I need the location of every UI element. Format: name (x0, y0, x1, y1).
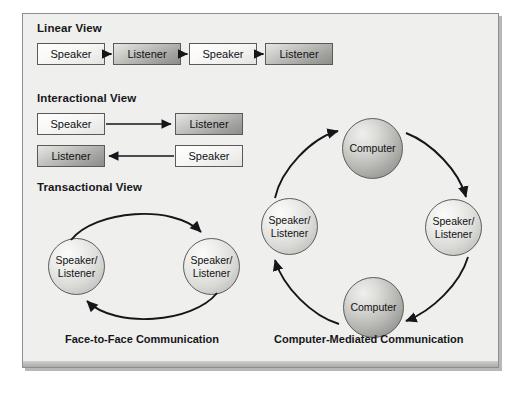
interactional-node-listener-top-label: Listener (189, 118, 228, 130)
interactional-view-arrows (106, 124, 174, 156)
cmc-node-speaker-listener-left-label-line2: Listener (271, 227, 308, 239)
cmc-node-speaker-listener-left-label-line1: Speaker/ (268, 214, 310, 226)
interactional-node-speaker-top: Speaker (37, 113, 105, 135)
linear-node-speaker-2-label: Speaker (203, 48, 244, 60)
caption-face-to-face: Face-to-Face Communication (65, 333, 219, 345)
transactional-node-left: Speaker/ Listener (48, 238, 105, 295)
transactional-node-right-label-line1: Speaker/ (190, 254, 232, 266)
linear-node-listener-2: Listener (265, 43, 333, 65)
transactional-node-left-label-line1: Speaker/ (55, 254, 97, 266)
figure-root: Linear View Speaker Listener Speaker Lis… (0, 0, 521, 395)
transactional-node-right: Speaker/ Listener (183, 238, 240, 295)
section-heading-transactional-view: Transactional View (37, 181, 142, 193)
linear-node-speaker-1-label: Speaker (51, 48, 92, 60)
cmc-node-computer-top: Computer (342, 118, 403, 179)
interactional-node-speaker-bottom-label: Speaker (189, 150, 230, 162)
interactional-node-listener-bottom: Listener (37, 145, 105, 167)
cmc-node-speaker-listener-right-label-line1: Speaker/ (432, 215, 474, 227)
interactional-node-speaker-bottom: Speaker (175, 145, 243, 167)
cmc-node-speaker-listener-right: Speaker/ Listener (425, 199, 482, 256)
interactional-node-listener-top: Listener (175, 113, 243, 135)
cmc-node-speaker-listener-right-label-line2: Listener (435, 228, 472, 240)
caption-computer-mediated: Computer-Mediated Communication (274, 333, 463, 345)
interactional-node-listener-bottom-label: Listener (51, 150, 90, 162)
linear-node-speaker-2: Speaker (189, 43, 257, 65)
section-heading-linear-view: Linear View (37, 22, 102, 34)
linear-node-speaker-1: Speaker (37, 43, 105, 65)
linear-node-listener-2-label: Listener (279, 48, 318, 60)
linear-node-listener-1: Listener (113, 43, 181, 65)
cmc-node-computer-top-label: Computer (349, 142, 395, 154)
interactional-node-speaker-top-label: Speaker (51, 118, 92, 130)
diagram-panel: Linear View Speaker Listener Speaker Lis… (22, 13, 499, 368)
cmc-node-computer-bottom-label: Computer (350, 301, 396, 313)
cmc-node-speaker-listener-left: Speaker/ Listener (261, 198, 318, 255)
section-heading-interactional-view: Interactional View (37, 92, 136, 104)
cmc-node-computer-bottom: Computer (343, 277, 404, 338)
transactional-node-left-label-line2: Listener (58, 267, 95, 279)
transactional-node-right-label-line2: Listener (193, 267, 230, 279)
linear-node-listener-1-label: Listener (127, 48, 166, 60)
